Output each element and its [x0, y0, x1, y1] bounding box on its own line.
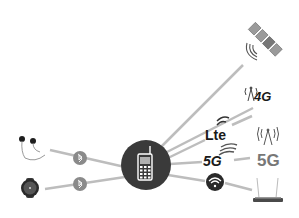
earphones-icon: [19, 136, 45, 160]
lte-label: Lte: [205, 127, 226, 143]
line-5g-to-tower: [234, 158, 250, 160]
4g-label: 4G: [253, 89, 271, 104]
bluetooth-icon: [73, 177, 87, 191]
line-to-5g: [170, 162, 202, 164]
5g-label: 5G: [203, 153, 222, 169]
line-wifi-to-router: [225, 183, 252, 190]
5g-signal-icon: [219, 144, 237, 155]
wifi-icon: [206, 173, 224, 191]
smartwatch-icon: [21, 178, 39, 198]
phone-circle: [121, 140, 171, 190]
connectivity-diagram: 4G Lte 5G 5G: [0, 0, 299, 218]
bluetooth-icon: [73, 151, 87, 165]
satellite-signal-icon: [246, 43, 257, 60]
line-to-wifi: [168, 175, 205, 181]
5g-tower-label: 5G: [257, 151, 280, 170]
line-to-satellite: [158, 65, 243, 150]
center-phone: [121, 140, 171, 190]
router-icon: [253, 178, 283, 202]
cell-tower-icon: [258, 127, 279, 145]
line-to-earphones: [50, 150, 125, 167]
